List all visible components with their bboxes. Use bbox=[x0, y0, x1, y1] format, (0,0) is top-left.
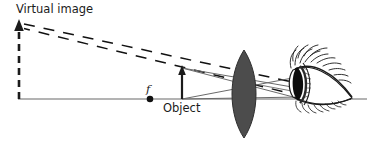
converging-lens bbox=[232, 50, 256, 138]
virtual-ray-dashed-lower bbox=[24, 29, 301, 97]
focal-point-dot bbox=[147, 96, 154, 103]
object-label: Object bbox=[163, 103, 200, 115]
virtual-image-arrowhead bbox=[14, 19, 24, 31]
diagram-canvas bbox=[0, 0, 367, 142]
ray-diagram-figure: Virtual image Object f bbox=[0, 0, 367, 142]
virtual-ray-dashed-upper bbox=[24, 24, 297, 83]
virtual-image-label: Virtual image bbox=[16, 4, 93, 16]
focal-point-label: f bbox=[146, 84, 150, 96]
eye-drawing bbox=[289, 45, 352, 113]
